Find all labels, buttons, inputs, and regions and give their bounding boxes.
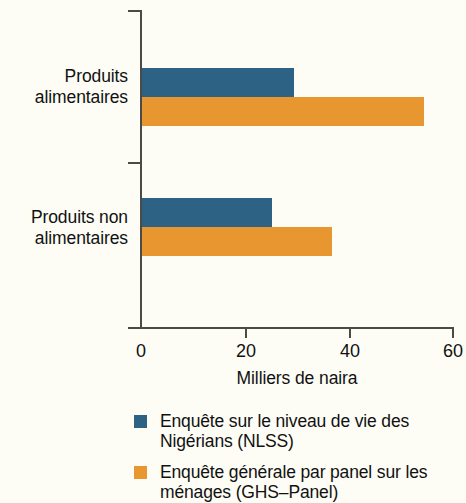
x-tick-20 xyxy=(245,329,247,338)
legend-item-ghs: Enquête générale par panel sur les ménag… xyxy=(134,462,466,502)
category-tick-top xyxy=(128,10,141,12)
legend-label-ghs-line1: Enquête générale par panel sur les xyxy=(160,462,427,482)
bar-chart-figure: Produits alimentaires Produits non alime… xyxy=(0,0,466,503)
legend-item-nlss: Enquête sur le niveau de vie des Nigéria… xyxy=(134,411,466,451)
legend-label-nlss-line2: Nigérians (NLSS) xyxy=(160,431,409,451)
plot-area: Produits alimentaires Produits non alime… xyxy=(0,0,466,400)
category-label-nonfood-line1: Produits non xyxy=(0,207,128,228)
legend-label-ghs-line2: ménages (GHS–Panel) xyxy=(160,482,427,502)
y-axis-line xyxy=(140,10,142,329)
x-tick-0 xyxy=(140,318,142,328)
bar-food-nlss xyxy=(142,68,294,97)
legend: Enquête sur le niveau de vie des Nigéria… xyxy=(134,411,466,503)
x-tick-60 xyxy=(452,329,454,338)
legend-label-nlss: Enquête sur le niveau de vie des Nigéria… xyxy=(160,411,409,451)
legend-label-nlss-line1: Enquête sur le niveau de vie des xyxy=(160,411,409,431)
category-label-food-line1: Produits xyxy=(0,66,128,87)
legend-swatch-nlss-icon xyxy=(134,415,147,428)
x-axis-title: Milliers de naira xyxy=(140,368,454,389)
legend-swatch-ghs-icon xyxy=(134,466,147,479)
x-tick-40 xyxy=(349,329,351,338)
x-tick-label-40: 40 xyxy=(320,341,380,362)
category-label-food-line2: alimentaires xyxy=(0,87,128,108)
x-tick-label-0: 0 xyxy=(111,341,171,362)
x-tick-label-20: 20 xyxy=(216,341,276,362)
category-label-nonfood-line2: alimentaires xyxy=(0,228,128,249)
bar-nonfood-ghs xyxy=(142,227,332,256)
category-label-food: Produits alimentaires xyxy=(0,66,128,108)
legend-label-ghs: Enquête générale par panel sur les ménag… xyxy=(160,462,427,502)
bar-nonfood-nlss xyxy=(142,198,272,227)
bar-food-ghs xyxy=(142,97,424,126)
x-axis-line xyxy=(140,327,454,329)
x-tick-label-60: 60 xyxy=(423,341,466,362)
category-label-nonfood: Produits non alimentaires xyxy=(0,207,128,249)
category-tick-middle xyxy=(128,162,141,164)
